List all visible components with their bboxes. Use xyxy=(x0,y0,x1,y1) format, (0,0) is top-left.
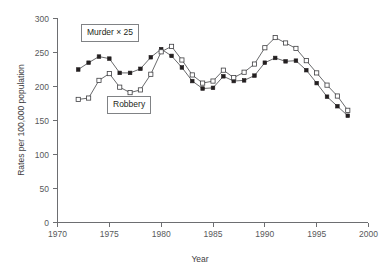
x-tick-label-2000: 2000 xyxy=(359,229,378,239)
data-point xyxy=(118,85,122,89)
x-axis-title: Year xyxy=(191,254,208,264)
x-ticks xyxy=(58,223,369,228)
data-point xyxy=(190,79,194,83)
x-tick-label-1990: 1990 xyxy=(255,229,274,239)
data-point xyxy=(222,75,226,79)
data-point xyxy=(242,70,246,74)
y-tick-label-250: 250 xyxy=(35,48,49,58)
data-point xyxy=(128,71,132,75)
data-point xyxy=(180,66,184,70)
data-point xyxy=(325,95,329,99)
data-point xyxy=(159,50,163,54)
data-point xyxy=(294,59,298,63)
data-point xyxy=(335,94,339,98)
data-point xyxy=(252,62,256,66)
y-tick-label-300: 300 xyxy=(35,14,49,24)
data-point xyxy=(211,79,215,83)
y-axis-title: Rates per 100,000 population xyxy=(16,64,26,176)
data-point xyxy=(107,71,111,75)
data-point xyxy=(190,73,194,77)
data-point xyxy=(284,60,288,64)
data-point xyxy=(221,68,225,72)
y-tick-label-200: 200 xyxy=(35,82,49,92)
y-ticks xyxy=(53,19,58,223)
murder-callout: Murder × 25 xyxy=(81,24,139,42)
data-point xyxy=(169,44,173,48)
data-point xyxy=(76,68,80,72)
data-point xyxy=(87,96,91,100)
data-point xyxy=(211,86,215,90)
robbery-callout: Robbery xyxy=(107,96,151,114)
data-point xyxy=(232,76,236,80)
x-tick-label-1975: 1975 xyxy=(100,229,119,239)
data-point xyxy=(304,59,308,63)
data-point xyxy=(76,97,80,101)
y-tick-label-150: 150 xyxy=(35,116,49,126)
data-point xyxy=(128,91,132,95)
data-point xyxy=(283,41,287,45)
data-point xyxy=(315,71,319,75)
x-axis: 1970 1975 1980 1985 1990 1995 2000 Year xyxy=(48,223,378,265)
data-point xyxy=(149,72,153,76)
x-tick-label-1985: 1985 xyxy=(204,229,223,239)
data-point xyxy=(180,58,184,62)
data-point xyxy=(108,57,112,61)
data-point xyxy=(305,68,309,72)
y-tick-label-100: 100 xyxy=(35,150,49,160)
data-point xyxy=(118,71,122,75)
data-point xyxy=(139,67,143,71)
data-point xyxy=(263,46,267,50)
data-point xyxy=(201,87,205,91)
data-point xyxy=(97,55,101,59)
data-point xyxy=(273,56,277,60)
data-point xyxy=(149,55,153,59)
y-tick-label-0: 0 xyxy=(44,218,49,228)
data-point xyxy=(201,81,205,85)
data-point xyxy=(294,46,298,50)
x-tick-label-1980: 1980 xyxy=(152,229,171,239)
data-point xyxy=(315,81,319,85)
chart-figure: 300 250 200 150 100 50 0 Rates per 100,0… xyxy=(0,0,383,274)
data-point xyxy=(325,83,329,87)
data-point xyxy=(336,104,340,108)
line-chart-canvas: 300 250 200 150 100 50 0 Rates per 100,0… xyxy=(0,0,383,274)
y-tick-label-50: 50 xyxy=(40,184,50,194)
y-axis: 300 250 200 150 100 50 0 Rates per 100,0… xyxy=(16,14,58,228)
data-point xyxy=(263,61,267,65)
x-tick-label-1970: 1970 xyxy=(48,229,67,239)
data-point xyxy=(346,114,350,118)
data-point xyxy=(97,78,101,82)
data-point xyxy=(242,79,246,83)
data-point xyxy=(138,88,142,92)
data-point xyxy=(346,108,350,112)
data-point xyxy=(253,74,257,78)
x-tick-label-1995: 1995 xyxy=(307,229,326,239)
data-point xyxy=(87,61,91,65)
data-point xyxy=(170,54,174,58)
data-point xyxy=(273,35,277,39)
